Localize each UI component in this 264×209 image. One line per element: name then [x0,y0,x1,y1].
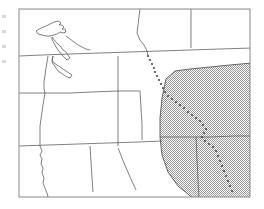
divide-dot [164,91,166,93]
divide-dot [229,185,231,187]
divide-dot [199,120,201,122]
divide-dot [215,150,217,152]
divide-dot [195,117,197,119]
divide-dot [204,140,206,142]
divide-dot [191,114,193,116]
shaded-study-area-polygon [160,63,252,199]
divide-dot [217,155,219,157]
divide-dot [219,160,221,162]
divide-dot [221,165,223,167]
divide-dot [212,146,214,148]
divide-dot [227,180,229,182]
divide-dot [153,67,155,69]
divide-dot [208,143,210,145]
divide-dot [167,95,169,97]
divide-dot [151,63,153,65]
divide-dot [183,107,185,109]
divide-dot [179,104,181,106]
divide-dot [201,136,203,138]
divide-dot [162,87,164,89]
divide-dot [147,55,149,57]
divide-dot [187,111,189,113]
divide-dot [149,59,151,61]
divide-dot [223,170,225,172]
divide-dot [203,132,205,134]
divide-dot [231,190,233,192]
divide-dot [154,71,156,73]
divide-dot [158,79,160,81]
divide-dot [156,75,158,77]
divide-dot [171,98,173,100]
divide-dot [205,128,207,130]
divide-dot [225,175,227,177]
map-figure [0,0,264,209]
divide-dot [175,101,177,103]
divide-dot [160,83,162,85]
map-canvas [0,0,264,209]
divide-dot [202,124,204,126]
